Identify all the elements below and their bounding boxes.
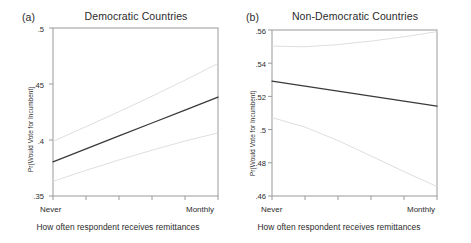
series-line-prediction	[53, 97, 218, 162]
series-line-confidence-interval	[53, 133, 218, 181]
series-line-prediction	[272, 81, 437, 106]
plot-frame	[53, 28, 218, 196]
series-line-confidence-interval	[272, 32, 437, 47]
panel-democratic-countries: (a) Democratic Countries Pr(Would Vote f…	[0, 0, 236, 243]
panel-non-democratic-countries: (b) Non-Democratic Countries Pr(Would Vo…	[236, 0, 471, 243]
plot-frame	[272, 30, 437, 196]
figure-root: (a) Democratic Countries Pr(Would Vote f…	[0, 0, 471, 243]
plot-area-b	[236, 0, 471, 243]
plot-area-a	[0, 0, 236, 243]
series-line-confidence-interval	[272, 118, 437, 187]
